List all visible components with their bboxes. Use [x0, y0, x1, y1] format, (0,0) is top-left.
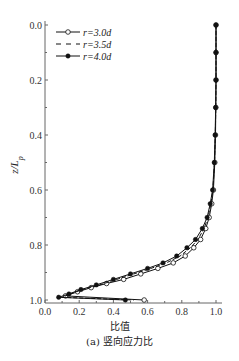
- y-tick-label: 0.2: [30, 75, 43, 86]
- figure-caption: (a) 竖向应力比: [0, 333, 239, 348]
- series-r-4-0d: [56, 23, 218, 302]
- filled-circle-marker: [128, 272, 132, 276]
- y-tick-label: 0.0: [30, 20, 43, 31]
- y-tick-label: 1.0: [30, 295, 43, 306]
- x-axis-label: 比值: [0, 318, 239, 333]
- filled-circle-marker: [94, 283, 98, 287]
- filled-circle-marker: [161, 261, 165, 265]
- series-line: [66, 25, 217, 300]
- open-circle-marker: [66, 30, 71, 35]
- filled-circle-marker: [185, 246, 189, 250]
- filled-circle-marker: [214, 23, 218, 27]
- filled-circle-marker: [67, 292, 71, 296]
- open-circle-marker: [191, 245, 196, 250]
- legend-label: r=3.5d: [83, 39, 112, 50]
- y-tick-label: 0.4: [30, 130, 43, 141]
- filled-circle-marker: [213, 133, 217, 137]
- chart: 0.00.20.40.60.81.00.00.20.40.60.81.0 r=3…: [0, 0, 239, 361]
- series-layer: [56, 23, 218, 303]
- legend-item: r=3.0d: [56, 27, 112, 38]
- filled-circle-marker: [79, 287, 83, 291]
- series-r-3-5d: [62, 25, 216, 300]
- legend-item: r=4.0d: [56, 51, 112, 62]
- x-tick-label: 0.0: [39, 306, 52, 317]
- filled-circle-marker: [214, 50, 218, 54]
- legend-label: r=3.0d: [83, 27, 112, 38]
- filled-circle-marker: [208, 202, 212, 206]
- legend-label: r=4.0d: [83, 51, 112, 62]
- x-tick-label: 1.0: [210, 306, 223, 317]
- series-line: [59, 25, 216, 300]
- filled-circle-marker: [213, 105, 217, 109]
- y-tick-label: 0.8: [30, 240, 43, 251]
- x-tick-label: 0.6: [141, 306, 154, 317]
- y-axis-label: z/Lp: [8, 156, 25, 174]
- series-line: [62, 25, 216, 300]
- filled-circle-marker: [145, 266, 149, 270]
- y-tick-label: 0.6: [30, 185, 43, 196]
- open-circle-marker: [198, 237, 203, 242]
- open-circle-marker: [171, 261, 176, 266]
- axes: 0.00.20.40.60.81.00.00.20.40.60.81.0: [30, 20, 223, 318]
- open-circle-marker: [142, 298, 147, 303]
- filled-circle-marker: [200, 226, 204, 230]
- filled-circle-marker: [56, 295, 60, 299]
- filled-circle-marker: [174, 254, 178, 258]
- legend-item: r=3.5d: [56, 39, 112, 50]
- filled-circle-marker: [210, 188, 214, 192]
- filled-circle-marker: [193, 237, 197, 241]
- x-tick-label: 0.8: [176, 306, 189, 317]
- filled-circle-marker: [111, 277, 115, 281]
- x-tick-label: 0.2: [73, 306, 86, 317]
- filled-circle-marker: [214, 78, 218, 82]
- x-tick-label: 0.4: [107, 306, 120, 317]
- series-r-3-0d: [63, 23, 218, 303]
- filled-circle-marker: [123, 298, 127, 302]
- filled-circle-marker: [212, 160, 216, 164]
- filled-circle-marker: [205, 215, 209, 219]
- filled-circle-marker: [66, 54, 70, 58]
- open-circle-marker: [183, 254, 188, 259]
- legend: r=3.0dr=3.5dr=4.0d: [56, 27, 112, 62]
